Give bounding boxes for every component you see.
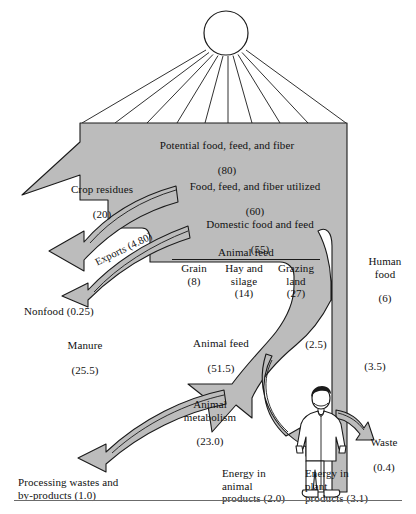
animal-feed-col-hay-label: Hay and silage	[216, 262, 272, 287]
label-processing-wastes: Processing wastes and by-products (1.0)	[18, 464, 188, 501]
label-waste: Waste (0.4)	[358, 424, 410, 473]
animal-feed-col-grain-label: Grain	[172, 262, 216, 274]
label-flow-2-5: (2.5)	[296, 326, 336, 351]
sun-icon	[82, 11, 346, 123]
animal-feed-col-grazing-value: (27)	[272, 287, 320, 299]
diagram-canvas: .fl{fill:#bcbcbc;stroke:#1a1a1a;stroke-w…	[0, 0, 416, 514]
label-animal-feed-total: Animal feed (51.5)	[166, 325, 276, 374]
label-manure: Manure (25.5)	[40, 327, 130, 376]
label-human-food: Human food (6)	[355, 243, 415, 305]
label-crop-residues: Crop residues (20)	[42, 171, 162, 220]
animal-feed-table-header: Animal feed	[172, 246, 320, 258]
animal-feed-col-grazing-label: Grazing land	[272, 262, 320, 287]
label-nonfood: Nonfood (0.25)	[24, 293, 154, 318]
label-flow-3-5: (3.5)	[355, 348, 395, 373]
animal-feed-col-grain-value: (8)	[172, 275, 216, 287]
animal-feed-table-rule	[172, 259, 320, 260]
label-energy-animal-products: Energy in animal products (2.0)	[222, 455, 318, 504]
footer-rule	[14, 500, 402, 501]
label-animal-metabolism: Animal metabolism (23.0)	[164, 386, 256, 448]
animal-feed-table: Animal feed Grain (8) Hay and silage (14…	[172, 246, 320, 299]
animal-feed-col-hay-value: (14)	[216, 287, 272, 299]
